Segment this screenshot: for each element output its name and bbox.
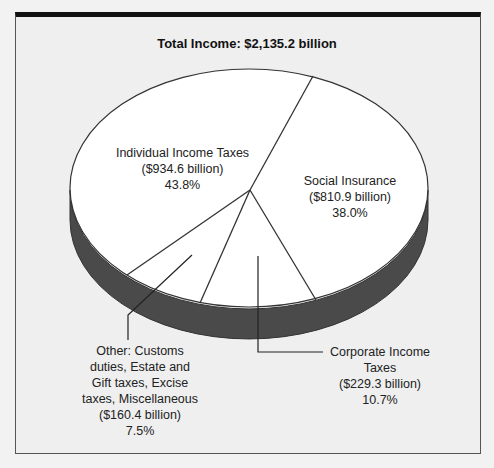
- label-individual: Individual Income Taxes ($934.6 billion)…: [100, 145, 265, 193]
- label-other: Other: Customs duties, Estate and Gift t…: [60, 343, 220, 439]
- label-social: Social Insurance ($810.9 billion) 38.0%: [285, 173, 415, 221]
- label-corporate: Corporate Income Taxes ($229.3 billion) …: [320, 344, 440, 408]
